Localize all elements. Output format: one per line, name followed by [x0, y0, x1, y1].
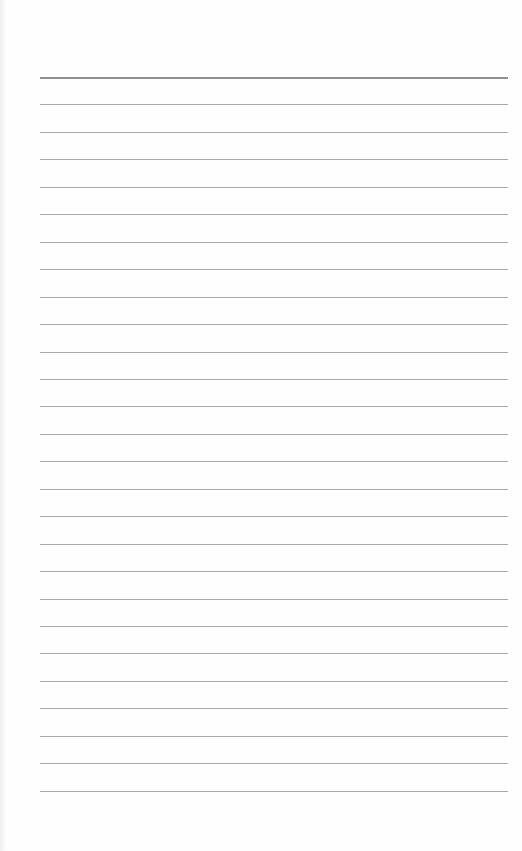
rule-line [40, 132, 508, 133]
rule-line [40, 242, 508, 243]
rule-line [40, 406, 508, 407]
rule-line [40, 214, 508, 215]
rule-line [40, 544, 508, 545]
header-rule-line [40, 77, 508, 79]
rule-line [40, 352, 508, 353]
rule-line [40, 516, 508, 517]
rule-line [40, 681, 508, 682]
notebook-page [0, 0, 522, 851]
rule-line [40, 187, 508, 188]
rule-line [40, 461, 508, 462]
rule-line [40, 434, 508, 435]
rule-line [40, 571, 508, 572]
rule-line [40, 763, 508, 764]
rule-line [40, 104, 508, 105]
rule-line [40, 489, 508, 490]
page-edge-shadow [0, 0, 6, 851]
rule-line [40, 626, 508, 627]
rule-line [40, 297, 508, 298]
rule-line [40, 324, 508, 325]
rule-line [40, 791, 508, 792]
rule-line [40, 379, 508, 380]
rule-line [40, 653, 508, 654]
rule-line [40, 708, 508, 709]
rule-line [40, 159, 508, 160]
rule-line [40, 269, 508, 270]
rule-line [40, 599, 508, 600]
rule-line [40, 736, 508, 737]
